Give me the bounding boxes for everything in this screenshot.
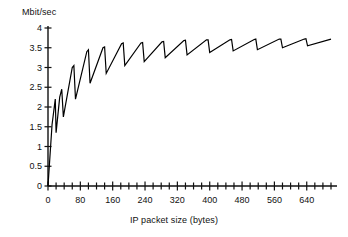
x-tick-label: 80 (64, 195, 96, 205)
x-tick-label: 640 (291, 195, 323, 205)
x-tick-label: 480 (226, 195, 258, 205)
x-tick-label: 160 (97, 195, 129, 205)
y-tick-label: 3.5 (6, 43, 42, 53)
throughput-line (48, 39, 331, 186)
y-tick-label: 3 (6, 63, 42, 73)
y-tick-label: 0 (6, 181, 42, 191)
y-tick-label: 0.5 (6, 161, 42, 171)
y-tick-label: 2.5 (6, 82, 42, 92)
x-tick-label: 0 (32, 195, 64, 205)
y-tick-label: 2 (6, 102, 42, 112)
x-tick-label: 320 (161, 195, 193, 205)
x-axis-title: IP packet size (bytes) (0, 215, 348, 226)
y-tick-label: 1 (6, 142, 42, 152)
x-tick-label: 400 (194, 195, 226, 205)
x-tick-label: 240 (129, 195, 161, 205)
x-tick-label: 560 (258, 195, 290, 205)
y-tick-label: 1.5 (6, 122, 42, 132)
tick-marks (45, 28, 332, 191)
y-tick-label: 4 (6, 23, 42, 33)
chart-container: Mbit/sec 00.511.522.533.54 0801602403204… (0, 0, 348, 237)
